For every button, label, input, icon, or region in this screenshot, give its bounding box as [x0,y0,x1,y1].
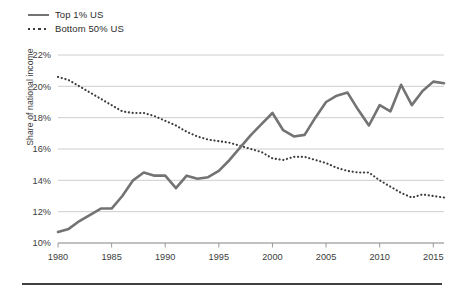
chart-figure: Top 1% US Bottom 50% US Share of nationa… [0,0,464,294]
x-tick-label: 1985 [101,252,121,262]
x-tick-label: 2005 [316,252,336,262]
x-tick-label: 2010 [369,252,389,262]
y-tick-label: 12% [33,207,51,217]
x-tick-label: 1990 [155,252,175,262]
x-tick-label: 2015 [423,252,443,262]
y-tick-label: 14% [33,176,51,186]
x-tick-label: 1995 [209,252,229,262]
x-tick-label: 2000 [262,252,282,262]
y-tick-label: 16% [33,144,51,154]
x-axis-ticks: 19801985199019952000200520102015 [48,243,444,262]
y-axis-ticks: 10%12%14%16%18%20%22% [33,50,51,248]
x-tick-label: 1980 [48,252,68,262]
series-top-1-percent [58,82,444,232]
y-tick-label: 10% [33,238,51,248]
series-line [58,82,444,232]
footer-divider [22,283,442,285]
series-bottom-50-percent [58,77,444,198]
y-tick-label: 20% [33,82,51,92]
series-line [58,77,444,198]
y-tick-label: 22% [33,50,51,60]
plot-area: 10%12%14%16%18%20%22% 198019851990199520… [0,0,464,294]
y-tick-label: 18% [33,113,51,123]
